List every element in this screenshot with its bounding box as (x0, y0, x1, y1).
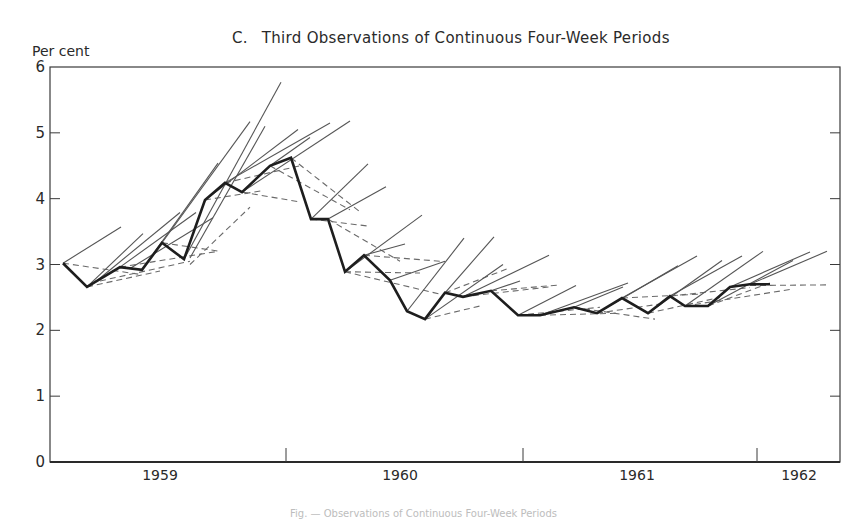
projection-line (622, 256, 697, 298)
projection-line (63, 227, 121, 263)
observed-series (63, 158, 770, 319)
dashed-line (242, 192, 300, 202)
observed-series-line (63, 158, 770, 319)
dashed-line (364, 255, 440, 261)
projection-line (463, 255, 549, 296)
projection-line (364, 244, 405, 255)
projection-lines (63, 82, 827, 319)
projection-line (225, 123, 330, 183)
projection-line (750, 251, 827, 284)
dashed-line (120, 251, 218, 267)
plot-frame (50, 67, 840, 462)
projection-line (87, 234, 143, 287)
projection-line (445, 237, 494, 293)
projection-line (328, 187, 386, 219)
dashed-line (622, 294, 700, 298)
dashed-line (445, 268, 510, 293)
projection-line (407, 238, 464, 311)
plot-border (50, 67, 840, 462)
caption-partial: Fig. — Observations of Continuous Four-W… (290, 508, 557, 519)
projection-line (730, 252, 810, 287)
dashed-estimate-lines (63, 158, 828, 319)
dashed-line (291, 158, 360, 212)
projection-line (390, 261, 445, 280)
projection-line (190, 126, 265, 258)
projection-line (311, 164, 368, 219)
projection-line (574, 287, 623, 307)
dashed-line (685, 290, 790, 306)
projection-line (162, 122, 250, 243)
